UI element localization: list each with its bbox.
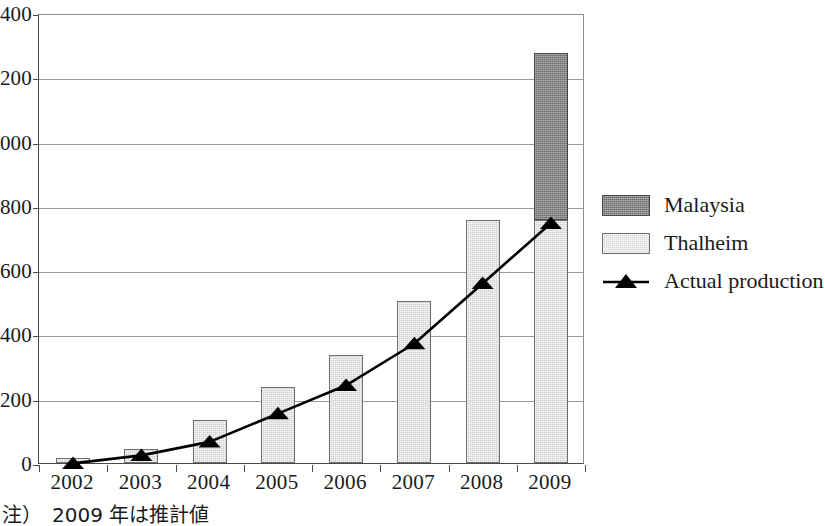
y-tick-mark [33,208,39,209]
y-tick-label: 600 [0,261,32,282]
y-tick-mark [33,144,39,145]
line-path [73,223,551,463]
line-marker-triangle [199,435,221,448]
x-tick-label: 2008 [447,472,517,493]
y-tick-mark [33,79,39,80]
x-tick-mark [585,465,586,472]
y-tick-label: 200 [0,390,32,411]
chart-legend: MalaysiaThalheimActual production [602,186,822,300]
line-marker-triangle [403,337,425,350]
y-tick-label: 1,400 [0,4,32,25]
legend-item: Thalheim [602,224,822,262]
legend-item-label: Thalheim [664,232,748,254]
x-tick-mark [176,465,177,472]
y-tick-mark [33,15,39,16]
x-tick-mark [312,465,313,472]
x-tick-mark [107,465,108,472]
x-tick-label: 2009 [515,472,585,493]
x-tick-label: 2006 [310,472,380,493]
legend-item-label: Malaysia [664,194,745,216]
chart-figure: 02004006008001,0001,2001,400 20022003200… [0,0,825,526]
y-tick-label: 800 [0,197,32,218]
legend-line-marker-icon [602,271,650,292]
x-tick-label: 2003 [105,472,175,493]
x-tick-mark [449,465,450,472]
y-tick-mark [33,401,39,402]
line-marker-triangle [267,407,289,420]
legend-swatch-thalheim-icon [602,233,650,254]
x-tick-label: 2002 [37,472,107,493]
y-tick-label: 1,200 [0,68,32,89]
y-tick-mark [33,272,39,273]
legend-item-label: Actual production [664,270,823,292]
plot-area [38,14,584,464]
line-marker-triangle [540,217,562,230]
legend-item: Malaysia [602,186,822,224]
chart-footnote: 注） 2009 年は推計値 [2,504,209,526]
y-tick-mark [33,465,39,466]
x-tick-mark [380,465,381,472]
x-tick-label: 2005 [242,472,312,493]
legend-swatch-malaysia-icon [602,195,650,216]
actual-production-line [39,15,585,465]
x-tick-mark [39,465,40,472]
y-tick-label: 400 [0,325,32,346]
line-marker-triangle [472,277,494,290]
legend-item: Actual production [602,262,822,300]
y-tick-label: 1,000 [0,133,32,154]
x-tick-mark [517,465,518,472]
x-tick-label: 2007 [378,472,448,493]
y-tick-label: 0 [21,454,32,475]
x-tick-label: 2004 [174,472,244,493]
y-tick-mark [33,336,39,337]
x-tick-mark [244,465,245,472]
